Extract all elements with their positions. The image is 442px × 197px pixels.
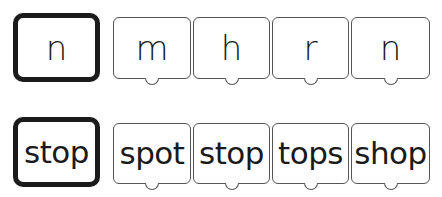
option-label: tops	[278, 138, 343, 169]
tile-tab	[304, 78, 318, 85]
option-tile-1[interactable]: spot	[113, 123, 191, 184]
option-tile-2[interactable]: stop	[193, 123, 270, 184]
tile-tab	[145, 78, 159, 85]
tile-tab	[304, 183, 318, 190]
tile-tab	[145, 183, 159, 190]
option-tile-3[interactable]: tops	[272, 123, 349, 184]
tile-tab	[225, 78, 239, 85]
option-label: spot	[120, 138, 185, 169]
tile-tab	[384, 78, 398, 85]
option-label: n	[380, 31, 402, 65]
target-word: stop	[24, 137, 89, 168]
tile-tab	[225, 183, 239, 190]
option-tile-2[interactable]: h	[193, 17, 270, 79]
tile-tab	[384, 183, 398, 190]
target-letter: n	[46, 31, 68, 65]
target-letter-card: n	[13, 13, 100, 82]
option-tile-4[interactable]: n	[351, 17, 430, 79]
option-label: stop	[199, 138, 264, 169]
target-word-card: stop	[13, 117, 100, 187]
option-label: r	[304, 31, 318, 65]
word-match-row: stop spot stop tops shop	[0, 100, 442, 197]
option-tile-3[interactable]: r	[272, 17, 349, 79]
option-label: shop	[354, 138, 426, 169]
option-tile-4[interactable]: shop	[351, 123, 430, 184]
option-label: h	[221, 31, 243, 65]
option-tile-1[interactable]: m	[113, 17, 191, 79]
option-label: m	[135, 31, 168, 65]
letter-match-row: n m h r n	[0, 0, 442, 100]
